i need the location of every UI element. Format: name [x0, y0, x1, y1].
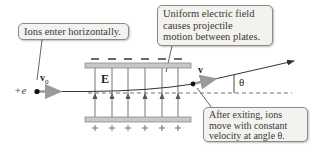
charge-label: +e: [14, 84, 26, 96]
exit-callout-line3: velocity at angle θ.: [209, 131, 302, 142]
v0-subscript: 0: [45, 78, 49, 86]
exit-callout-pointer: [197, 88, 212, 108]
field-callout-line3: motion between plates.: [163, 31, 267, 43]
initial-velocity-label: v0: [40, 72, 49, 86]
field-callout-line1: Uniform electric field: [163, 8, 267, 20]
angle-label: θ: [239, 76, 244, 88]
ion-trajectory: [60, 84, 193, 92]
exit-callout: After exiting, ions move with constant v…: [203, 107, 308, 142]
ion-dot: [34, 89, 39, 94]
enter-callout-text: Ions enter horizontally.: [24, 26, 121, 37]
exit-ion-dot: [191, 82, 196, 87]
bottom-plate: [85, 117, 191, 122]
field-label: E: [101, 72, 109, 87]
enter-callout: Ions enter horizontally.: [18, 23, 129, 40]
exit-velocity-label: v: [198, 64, 203, 75]
field-callout-line2: causes projectile: [163, 20, 267, 32]
positive-charges: [92, 125, 181, 131]
field-callout: Uniform electric field causes projectile…: [157, 5, 273, 46]
top-plate: [85, 63, 191, 68]
exit-callout-line1: After exiting, ions: [209, 110, 302, 121]
exit-velocity-arrow: [194, 79, 215, 84]
